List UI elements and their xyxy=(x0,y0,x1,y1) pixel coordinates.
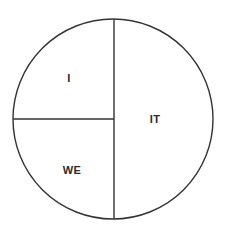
region-label-lower-left: WE xyxy=(63,165,81,176)
diagram-canvas: I IT WE xyxy=(0,0,226,236)
divided-circle-diagram xyxy=(0,0,226,236)
region-label-upper-left: I xyxy=(67,73,70,84)
region-label-right-half: IT xyxy=(150,114,160,125)
